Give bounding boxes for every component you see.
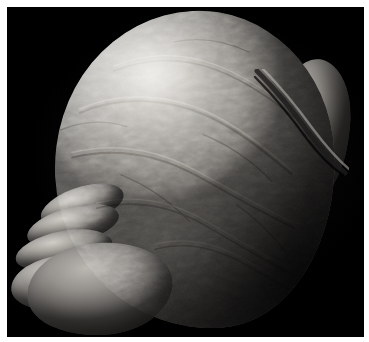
screenshot-root: [0, 0, 369, 342]
specimen-photograph: [7, 7, 364, 337]
photo-plate: [7, 7, 364, 337]
